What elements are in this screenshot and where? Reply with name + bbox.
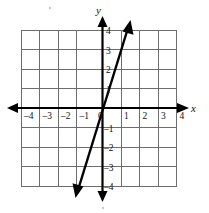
x-axis-arrow-left-icon <box>7 103 18 113</box>
x-tick-label--3: –3 <box>42 111 53 121</box>
plotted-line-arrow-down-icon <box>73 183 84 198</box>
y-tick-label-4: 4 <box>106 26 111 36</box>
y-tick-label--1: –1 <box>103 124 114 134</box>
coordinate-plane-figure: x y –4 –3 –2 –1 0 1 2 3 4 4 3 2 1 –1 –2 … <box>0 0 209 213</box>
x-tick-label-0: 0 <box>98 111 103 121</box>
graph-canvas: x y –4 –3 –2 –1 0 1 2 3 4 4 3 2 1 –1 –2 … <box>0 0 209 213</box>
x-axis-label: x <box>190 102 196 114</box>
y-tick-label--2: –2 <box>103 143 114 153</box>
x-tick-labels: –4 –3 –2 –1 0 1 2 3 4 <box>23 111 185 121</box>
y-tick-label-2: 2 <box>106 65 111 75</box>
y-axis-label: y <box>95 4 101 16</box>
x-tick-label-2: 2 <box>143 111 148 121</box>
y-tick-label--3: –3 <box>103 163 114 173</box>
scan-speck-top-left <box>49 7 51 9</box>
scan-speck-bottom <box>102 207 104 209</box>
y-tick-label-1: 1 <box>106 85 111 95</box>
y-tick-label--4: –4 <box>103 182 114 192</box>
x-tick-label-4: 4 <box>180 111 185 121</box>
x-tick-label--4: –4 <box>23 111 34 121</box>
y-tick-label-3: 3 <box>106 46 111 56</box>
plotted-line-arrow-up-icon <box>123 20 134 35</box>
x-tick-label--2: –2 <box>60 111 71 121</box>
y-axis-arrow-down-icon <box>98 191 108 202</box>
x-tick-label-3: 3 <box>161 111 166 121</box>
x-tick-label--1: –1 <box>79 111 90 121</box>
x-tick-label-1: 1 <box>124 111 129 121</box>
